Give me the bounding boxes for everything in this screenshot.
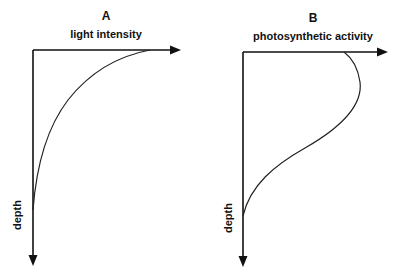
diagram-canvas: A light intensity depth B photosynthetic… <box>0 0 400 278</box>
panel-a-light-intensity-curve <box>33 50 150 210</box>
panel-b-y-arrow-icon <box>239 256 248 267</box>
panel-a-y-arrow-icon <box>29 255 38 266</box>
panel-a-y-axis-label: depth <box>11 200 23 230</box>
panel-b-x-arrow-icon <box>377 48 388 57</box>
panel-b: B photosynthetic activity depth <box>222 11 388 267</box>
panel-b-letter: B <box>309 11 318 25</box>
panel-a-letter: A <box>102 9 111 23</box>
panel-a: A light intensity depth <box>11 9 181 266</box>
panel-a-x-arrow-icon <box>170 46 181 55</box>
panel-b-y-axis-label: depth <box>222 203 234 233</box>
panel-a-x-axis-label: light intensity <box>70 28 142 40</box>
panel-b-x-axis-label: photosynthetic activity <box>253 30 374 42</box>
panel-b-photosynthetic-activity-curve <box>243 52 360 216</box>
